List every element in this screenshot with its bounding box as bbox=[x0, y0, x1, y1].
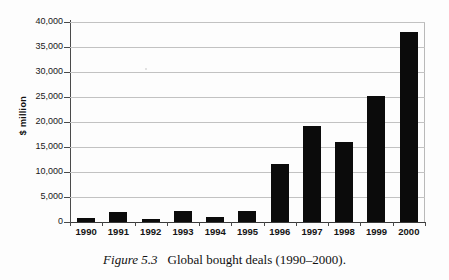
bar-slot bbox=[393, 22, 425, 222]
bar-slot bbox=[264, 22, 296, 222]
x-axis-tick-label-1997: 1997 bbox=[296, 226, 328, 238]
bar-1997 bbox=[303, 126, 321, 223]
bar-1992 bbox=[142, 219, 160, 223]
y-axis-tick-label: 40,000 bbox=[3, 17, 63, 26]
bar-1991 bbox=[109, 212, 127, 222]
x-axis-tick-mark bbox=[425, 222, 426, 226]
y-axis-tick-label: 30,000 bbox=[3, 67, 63, 76]
bar-slot bbox=[70, 22, 102, 222]
y-axis-tick-label: 5,000 bbox=[3, 192, 63, 201]
y-axis-title: $ million bbox=[18, 96, 32, 135]
bar-slot bbox=[296, 22, 328, 222]
x-axis-tick-label-1999: 1999 bbox=[360, 226, 392, 238]
bar-slot bbox=[328, 22, 360, 222]
x-axis-labels: 1990199119921993199419951996199719981999… bbox=[70, 226, 425, 242]
bar-1996 bbox=[271, 164, 289, 222]
x-axis-tick-label-1992: 1992 bbox=[135, 226, 167, 238]
figure-number: Figure 5.3 bbox=[103, 252, 157, 267]
y-axis-tick-label: 20,000 bbox=[3, 117, 63, 126]
bar-1998 bbox=[335, 142, 353, 222]
bar-slot bbox=[135, 22, 167, 222]
x-axis-tick-label-1991: 1991 bbox=[102, 226, 134, 238]
bar-slot bbox=[102, 22, 134, 222]
y-axis-tick-label: 15,000 bbox=[3, 142, 63, 151]
bar-slot bbox=[231, 22, 263, 222]
x-axis-tick-label-1998: 1998 bbox=[328, 226, 360, 238]
bar-1994 bbox=[206, 217, 224, 222]
x-axis-tick-label-2000: 2000 bbox=[393, 226, 425, 238]
figure-container: $ million 05,00010,00015,00020,00025,000… bbox=[0, 0, 449, 280]
bar-1993 bbox=[174, 211, 192, 222]
bar-1999 bbox=[367, 96, 385, 223]
plot-area bbox=[70, 22, 425, 222]
x-axis-tick-label-1990: 1990 bbox=[70, 226, 102, 238]
figure-caption: Figure 5.3Global bought deals (1990–2000… bbox=[0, 252, 449, 268]
x-axis-tick-label-1994: 1994 bbox=[199, 226, 231, 238]
bar-slot bbox=[167, 22, 199, 222]
x-axis-tick-label-1995: 1995 bbox=[231, 226, 263, 238]
bar-1995 bbox=[238, 211, 256, 222]
y-axis-tick-label: 0 bbox=[3, 217, 63, 226]
bar-slot bbox=[199, 22, 231, 222]
bar-slot bbox=[360, 22, 392, 222]
y-axis-tick-label: 25,000 bbox=[3, 92, 63, 101]
bar-1990 bbox=[77, 218, 95, 222]
figure-caption-text: Global bought deals (1990–2000). bbox=[168, 252, 346, 267]
x-axis-tick-label-1993: 1993 bbox=[167, 226, 199, 238]
y-axis-tick-label: 10,000 bbox=[3, 167, 63, 176]
x-axis-tick-label-1996: 1996 bbox=[264, 226, 296, 238]
axis-baseline bbox=[70, 222, 425, 223]
bar-2000 bbox=[400, 32, 418, 222]
y-axis-tick-label: 35,000 bbox=[3, 42, 63, 51]
